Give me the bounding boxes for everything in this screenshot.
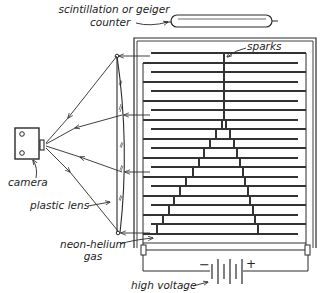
plastic-lens — [115, 54, 124, 235]
battery — [212, 259, 242, 284]
gas-label-line2: gas — [78, 251, 108, 262]
sparks-label: sparks — [247, 41, 281, 52]
voltage-label: high voltage — [131, 280, 196, 291]
counter-leader — [136, 22, 168, 25]
camera — [15, 128, 44, 159]
circuit-wires — [143, 255, 308, 271]
minus-sign: − — [199, 259, 210, 270]
plus-sign: + — [246, 259, 256, 270]
lens-label: plastic lens — [30, 200, 89, 211]
counter-label-line2: counter — [90, 17, 130, 28]
gas-label-line1: neon-helium — [60, 239, 118, 250]
geiger-counter-tube — [164, 15, 278, 27]
lens-leader — [88, 202, 110, 206]
spark-tracks — [157, 53, 258, 234]
camera-label: camera — [8, 177, 48, 188]
counter-label-line1: scintillation or geiger — [58, 4, 170, 15]
